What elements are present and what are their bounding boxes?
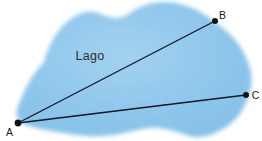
point-b-label: B [219, 9, 226, 21]
point-c-label: C [252, 89, 260, 101]
diagram-canvas: Lago A B C [0, 0, 262, 141]
point-b-dot [212, 18, 218, 24]
lake-label: Lago [75, 49, 104, 63]
point-a-label: A [6, 126, 13, 138]
lake-diagram: Lago A B C [0, 0, 262, 141]
point-c-dot [243, 92, 249, 98]
point-a-dot [15, 120, 22, 127]
